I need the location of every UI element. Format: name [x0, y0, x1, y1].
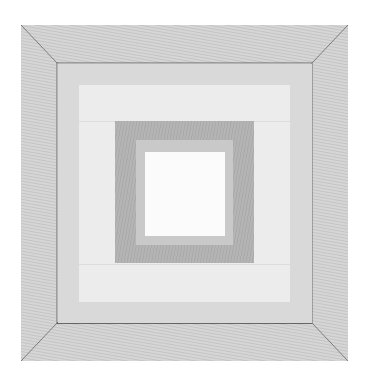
seam-line-bottom: [79, 264, 290, 265]
artwork: [0, 0, 367, 378]
center-square: [145, 152, 225, 236]
